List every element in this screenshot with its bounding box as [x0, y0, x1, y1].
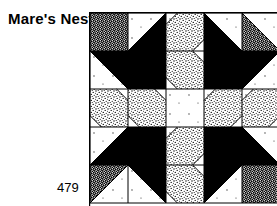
quilt-block-diagram — [89, 12, 277, 206]
cell-r5-c5 — [242, 165, 277, 203]
page-title: Mare's Nest — [8, 10, 94, 27]
cell-r4-c2 — [128, 127, 166, 165]
page-canvas: Mare's Nest 479 — [0, 0, 277, 206]
cell-r2-c2 — [128, 51, 166, 89]
cell-r4-c4 — [204, 127, 242, 165]
cell-r3-c3-bg — [166, 89, 204, 127]
cell-r2-c4 — [204, 51, 242, 89]
cell-r1-c1 — [90, 13, 128, 51]
page-number: 479 — [57, 180, 79, 195]
quilt-block-container — [89, 12, 277, 206]
